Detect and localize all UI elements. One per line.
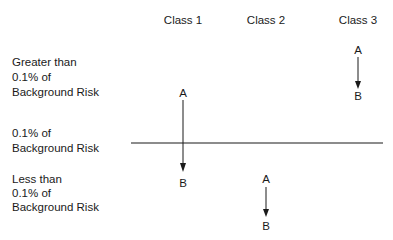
class-3-point-a: A xyxy=(354,43,362,57)
arrow-class-2 xyxy=(263,187,269,217)
class-2-point-a: A xyxy=(262,172,270,186)
class-1-point-b: B xyxy=(179,176,187,190)
class-3-point-b: B xyxy=(354,89,362,103)
arrow-class-3 xyxy=(355,57,361,89)
class-1-point-a: A xyxy=(179,86,187,100)
class-2-point-b: B xyxy=(262,219,270,233)
arrow-class-1 xyxy=(180,100,186,172)
diagram-lines xyxy=(0,0,393,240)
